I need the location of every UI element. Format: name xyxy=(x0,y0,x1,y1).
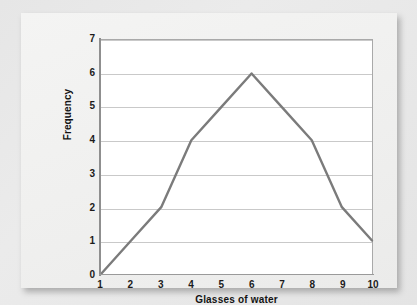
y-axis-tick-label: 4 xyxy=(75,135,95,145)
y-axis-tick-label: 6 xyxy=(75,68,95,78)
y-axis-tick-label: 5 xyxy=(75,101,95,111)
frequency-polygon-series xyxy=(101,40,372,274)
y-axis-tick-label: 7 xyxy=(75,34,95,44)
y-axis-tick-labels: 01234567 xyxy=(73,39,95,275)
x-axis-title: Glasses of water xyxy=(100,294,373,305)
x-axis-tick-label: 7 xyxy=(270,279,294,290)
y-axis-line xyxy=(99,38,101,276)
x-axis-tick-label: 1 xyxy=(88,279,112,290)
figure-card: Frequency 01234567 12345678910 Glasses o… xyxy=(21,13,397,288)
y-axis-title: Frequency xyxy=(62,70,73,160)
x-axis-line xyxy=(99,274,374,275)
x-axis-tick-label: 4 xyxy=(179,279,203,290)
x-axis-tick-label: 3 xyxy=(149,279,173,290)
x-axis-tick-label: 6 xyxy=(240,279,264,290)
y-axis-tick-label: 3 xyxy=(75,169,95,179)
y-axis-tick-label: 1 xyxy=(75,236,95,246)
x-axis-tick-label: 8 xyxy=(300,279,324,290)
y-axis-tick-label: 2 xyxy=(75,203,95,213)
x-axis-tick-label: 10 xyxy=(361,279,385,290)
x-axis-tick-label: 9 xyxy=(331,279,355,290)
x-axis-tick-label: 5 xyxy=(209,279,233,290)
x-axis-tick-labels: 12345678910 xyxy=(100,279,373,293)
x-axis-tick-label: 2 xyxy=(118,279,142,290)
plot-area xyxy=(100,39,373,275)
chart-screenshot: Frequency 01234567 12345678910 Glasses o… xyxy=(0,0,417,305)
